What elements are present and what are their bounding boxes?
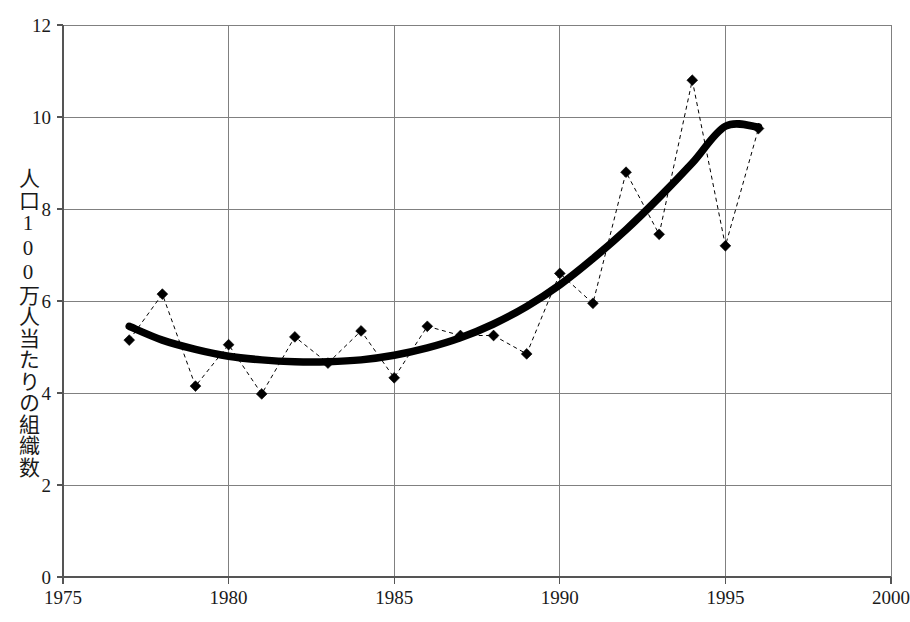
y-tick-label: 10 bbox=[32, 107, 51, 128]
data-point-marker bbox=[720, 240, 731, 251]
data-point-marker bbox=[521, 349, 532, 360]
data-series-markers bbox=[124, 75, 764, 400]
data-point-marker bbox=[654, 229, 665, 240]
data-point-marker bbox=[157, 289, 168, 300]
data-point-marker bbox=[289, 331, 300, 342]
data-point-marker bbox=[223, 339, 234, 350]
x-tick-label: 1975 bbox=[44, 587, 82, 608]
chart-container: 人口100万人当たりの組織数 197519801985199019952000 … bbox=[0, 0, 910, 622]
y-tick-label: 0 bbox=[42, 567, 52, 588]
trend-curve-path bbox=[129, 124, 758, 362]
data-point-marker bbox=[124, 335, 135, 346]
gridlines-group bbox=[63, 25, 891, 577]
y-tick-label: 8 bbox=[42, 199, 52, 220]
x-tick-label: 2000 bbox=[872, 587, 910, 608]
data-point-marker bbox=[190, 381, 201, 392]
x-tick-label: 1995 bbox=[706, 587, 744, 608]
y-tick-label: 2 bbox=[42, 475, 52, 496]
tick-marks-group bbox=[57, 25, 891, 584]
y-tick-label: 12 bbox=[32, 15, 51, 36]
x-tick-label: 1980 bbox=[210, 587, 248, 608]
data-point-marker bbox=[621, 167, 632, 178]
x-axis-tick-labels: 197519801985199019952000 bbox=[44, 587, 910, 608]
data-point-marker bbox=[256, 389, 267, 400]
x-tick-label: 1990 bbox=[541, 587, 579, 608]
x-tick-label: 1985 bbox=[375, 587, 413, 608]
data-point-marker bbox=[389, 372, 400, 383]
y-tick-label: 6 bbox=[42, 291, 52, 312]
data-point-marker bbox=[422, 321, 433, 332]
data-point-marker bbox=[488, 330, 499, 341]
y-tick-label: 4 bbox=[42, 383, 52, 404]
data-point-marker bbox=[588, 298, 599, 309]
chart-plot: 197519801985199019952000 024681012 bbox=[0, 0, 910, 622]
trend-curve bbox=[129, 124, 758, 362]
y-axis-tick-labels: 024681012 bbox=[32, 15, 52, 588]
data-point-marker bbox=[687, 75, 698, 86]
